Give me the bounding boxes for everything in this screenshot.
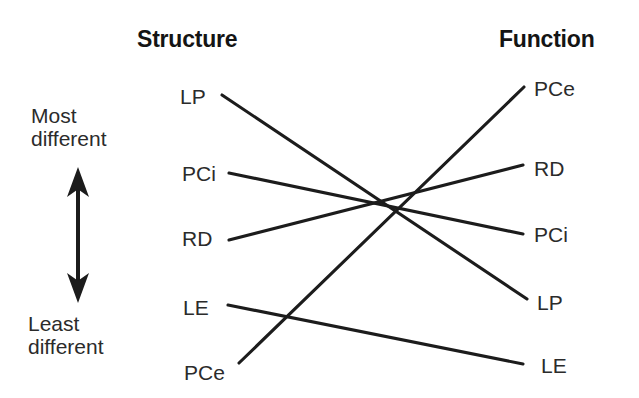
- function-node-le: LE: [541, 355, 567, 376]
- link-line-le: [228, 305, 523, 364]
- structure-node-lp: LP: [180, 86, 206, 107]
- structure-node-pci: PCi: [182, 163, 216, 184]
- structure-node-le: LE: [183, 297, 209, 318]
- slopegraph-linkage-lines: [0, 0, 639, 398]
- function-node-pci: PCi: [534, 224, 568, 245]
- function-node-rd: RD: [534, 158, 564, 179]
- function-node-lp: LP: [537, 292, 563, 313]
- structure-node-rd: RD: [182, 228, 212, 249]
- structure-node-pce: PCe: [184, 362, 225, 383]
- figure-canvas: Structure Function Most different Least …: [0, 0, 639, 398]
- link-line-lp: [222, 95, 527, 299]
- function-node-pce: PCe: [534, 78, 575, 99]
